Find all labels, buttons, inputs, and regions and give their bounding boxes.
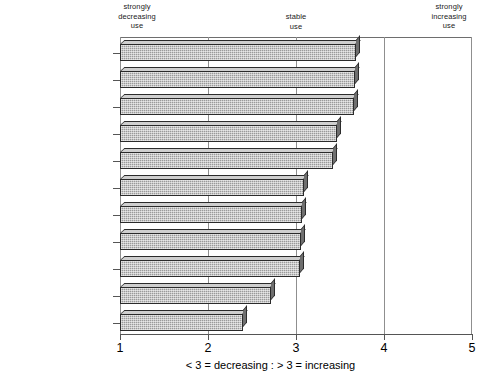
x-tick-mark-4 bbox=[384, 334, 385, 340]
bar-plywood bbox=[120, 179, 304, 196]
bar-hardwood-lumber bbox=[120, 98, 354, 115]
x-axis-caption: < 3 = decreasing : > 3 = increasing bbox=[0, 359, 481, 371]
bar-front-facet bbox=[120, 71, 355, 88]
x-tick-mark-3 bbox=[296, 334, 297, 340]
bar-front-facet bbox=[120, 179, 304, 196]
bar-front-facet bbox=[120, 44, 356, 61]
bar-hardboard bbox=[120, 233, 301, 250]
bar-front-facet bbox=[120, 152, 333, 169]
bar-md-laminates bbox=[120, 206, 302, 223]
annotation-stable-use: stable use bbox=[262, 12, 330, 31]
bar-front-facet bbox=[120, 206, 302, 223]
bar-ind-particleboard bbox=[120, 44, 356, 61]
annotation-strongly-increasing: strongly increasing use bbox=[418, 2, 480, 31]
bar-wood-veneer bbox=[120, 71, 355, 88]
y-tick-md-laminates bbox=[113, 215, 120, 216]
x-tick-label-4: 4 bbox=[372, 341, 396, 355]
bar-softwood-lumber bbox=[120, 260, 300, 277]
gridline-4 bbox=[384, 37, 385, 334]
y-tick-vinyl-overlays bbox=[113, 296, 120, 297]
bar-osb bbox=[120, 314, 243, 331]
x-tick-mark-5 bbox=[472, 334, 473, 340]
bar-vinyl-overlays bbox=[120, 287, 271, 304]
x-tick-label-2: 2 bbox=[196, 341, 220, 355]
y-tick-hardboard bbox=[113, 242, 120, 243]
y-tick-hd-laminates bbox=[113, 161, 120, 162]
x-tick-label-5: 5 bbox=[460, 341, 481, 355]
y-tick-mdf bbox=[113, 134, 120, 135]
annotation-strongly-decreasing: strongly decreasing use bbox=[100, 2, 174, 31]
bar-front-facet bbox=[120, 314, 243, 331]
gridline-5 bbox=[471, 37, 472, 334]
y-tick-ind-particleboard bbox=[113, 53, 120, 54]
y-tick-softwood-lumber bbox=[113, 269, 120, 270]
bar-front-facet bbox=[120, 260, 300, 277]
bar-front-facet bbox=[120, 233, 301, 250]
y-tick-hardwood-lumber bbox=[113, 107, 120, 108]
x-axis-caption-text: < 3 = decreasing : > 3 = increasing bbox=[186, 359, 355, 371]
y-tick-wood-veneer bbox=[113, 80, 120, 81]
x-tick-mark-2 bbox=[208, 334, 209, 340]
bar-front-facet bbox=[120, 287, 271, 304]
bar-front-facet bbox=[120, 98, 354, 115]
bar-hd-laminates bbox=[120, 152, 333, 169]
x-tick-mark-1 bbox=[120, 334, 121, 340]
x-tick-label-1: 1 bbox=[108, 341, 132, 355]
x-tick-label-3: 3 bbox=[284, 341, 308, 355]
y-tick-plywood bbox=[113, 188, 120, 189]
bar-mdf bbox=[120, 125, 337, 142]
bar-chart: strongly decreasing use stable use stron… bbox=[0, 0, 481, 377]
y-tick-osb bbox=[113, 323, 120, 324]
bar-front-facet bbox=[120, 125, 337, 142]
